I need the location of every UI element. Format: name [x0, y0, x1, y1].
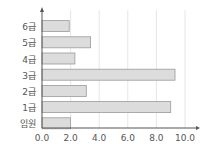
bar-3급	[42, 69, 175, 80]
x-tick-label: 10.0	[170, 133, 200, 143]
y-tick-label: 1급	[2, 101, 36, 114]
y-tick-label: 6급	[2, 20, 36, 33]
x-tick-label: 2.0	[56, 133, 86, 143]
horizontal-bar-chart: 6급5급4급3급2급1급임원0.02.04.06.08.010.0	[0, 0, 220, 151]
y-tick-label: 2급	[2, 85, 36, 98]
y-axis-arrow-icon	[40, 7, 44, 12]
x-tick-label: 4.0	[84, 133, 114, 143]
x-axis-arrow-icon	[196, 126, 200, 130]
bar-4급	[42, 53, 75, 64]
bar-임원	[42, 118, 71, 129]
bar-2급	[42, 85, 86, 96]
y-tick-label: 4급	[2, 53, 36, 66]
y-tick-label: 임원	[2, 117, 36, 130]
x-tick-label: 6.0	[113, 133, 143, 143]
y-tick-label: 5급	[2, 36, 36, 49]
bar-5급	[42, 37, 91, 48]
x-tick-label: 0.0	[27, 133, 57, 143]
x-tick-label: 8.0	[141, 133, 171, 143]
bar-6급	[42, 21, 69, 32]
bar-1급	[42, 102, 171, 113]
y-tick-label: 3급	[2, 69, 36, 82]
